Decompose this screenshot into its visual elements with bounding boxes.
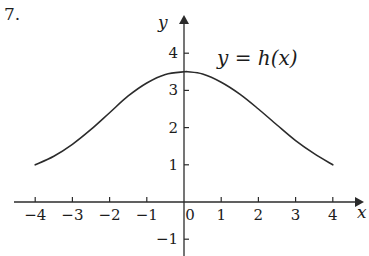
- y-tick-label: 2: [168, 119, 178, 137]
- y-axis-arrowhead: [179, 15, 189, 24]
- y-axis-label: y: [158, 12, 168, 32]
- y-tick-label: −1: [156, 230, 178, 248]
- x-tick-label: −3: [61, 206, 83, 224]
- x-tick-label: 0: [185, 206, 195, 224]
- y-tick-label: 3: [168, 81, 178, 99]
- x-tick-label: 2: [254, 206, 264, 224]
- x-axis-label: x: [357, 202, 367, 222]
- y-tick-label: 1: [168, 156, 178, 174]
- x-tick-label: −1: [136, 206, 158, 224]
- x-tick-label: 4: [328, 206, 338, 224]
- x-tick-label: −2: [99, 206, 121, 224]
- curve-equation-label: y = h(x): [217, 46, 298, 70]
- x-tick-label: 1: [216, 206, 226, 224]
- x-tick-label: −4: [24, 206, 46, 224]
- graph-figure: 7. y x y = h(x) −4−3−2−1012344321−1: [0, 0, 369, 256]
- y-tick-label: 4: [168, 44, 178, 62]
- problem-number: 7.: [4, 4, 20, 24]
- x-tick-label: 3: [291, 206, 301, 224]
